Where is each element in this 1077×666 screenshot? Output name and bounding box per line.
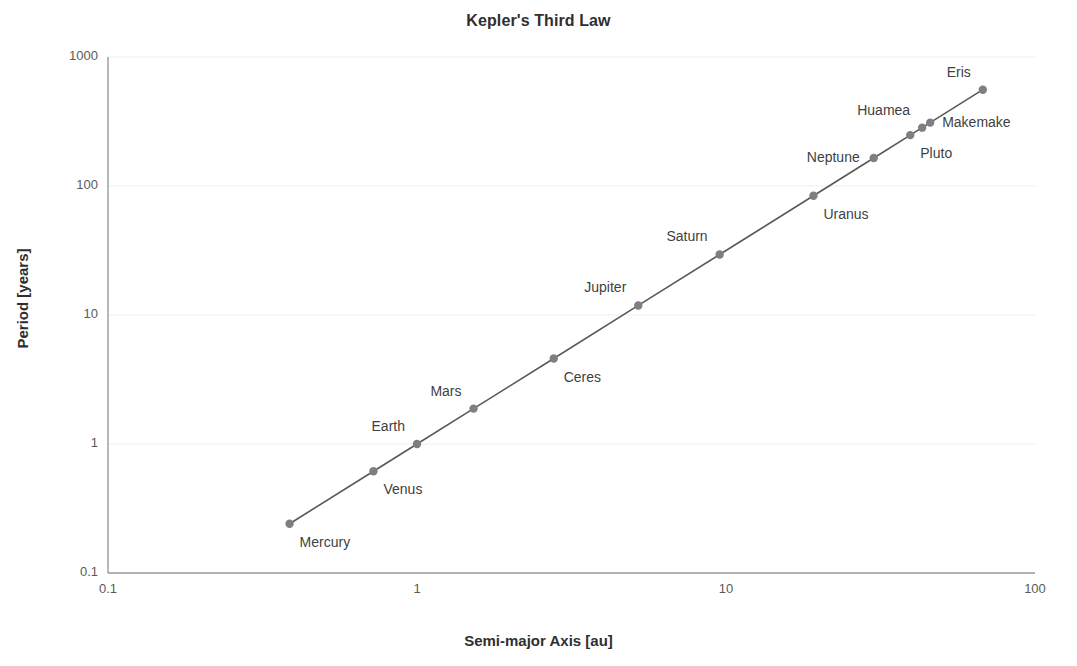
point-label: Pluto <box>920 145 1077 161</box>
data-point-marker <box>906 131 914 139</box>
data-point-marker <box>634 301 642 309</box>
point-label: Neptune <box>640 149 860 165</box>
x-tick-label: 10 <box>686 581 766 596</box>
data-point-marker <box>469 404 477 412</box>
x-axis-title: Semi-major Axis [au] <box>0 632 1077 649</box>
data-point-marker <box>809 192 817 200</box>
data-point-marker <box>369 467 377 475</box>
point-label: Uranus <box>823 206 1043 222</box>
x-tick-label: 1 <box>377 581 457 596</box>
y-tick-label: 100 <box>30 177 98 192</box>
data-point-marker <box>285 520 293 528</box>
data-point-marker <box>979 85 987 93</box>
kepler-third-law-chart: Kepler's Third Law 0.111010010000.111010… <box>0 0 1077 666</box>
data-point-marker <box>870 154 878 162</box>
point-label: Makemake <box>942 114 1077 130</box>
data-point-marker <box>926 118 934 126</box>
data-series <box>285 85 987 527</box>
x-tick-label: 0.1 <box>68 581 148 596</box>
plot-area <box>0 0 1077 666</box>
point-label: Venus <box>383 481 603 497</box>
point-label: Huamea <box>690 102 910 118</box>
data-point-marker <box>715 250 723 258</box>
point-label: Eris <box>751 64 971 80</box>
point-label: Saturn <box>488 228 708 244</box>
point-label: Earth <box>185 418 405 434</box>
x-tick-label: 100 <box>995 581 1075 596</box>
data-point-marker <box>413 440 421 448</box>
point-label: Ceres <box>564 369 784 385</box>
y-tick-label: 0.1 <box>30 564 98 579</box>
point-label: Mercury <box>300 534 520 550</box>
data-point-marker <box>550 354 558 362</box>
y-tick-label: 10 <box>30 306 98 321</box>
point-label: Jupiter <box>406 279 626 295</box>
data-point-marker <box>918 123 926 131</box>
y-axis-title: Period [years] <box>14 219 31 379</box>
y-tick-label: 1000 <box>30 48 98 63</box>
y-tick-label: 1 <box>30 435 98 450</box>
point-label: Mars <box>242 383 462 399</box>
